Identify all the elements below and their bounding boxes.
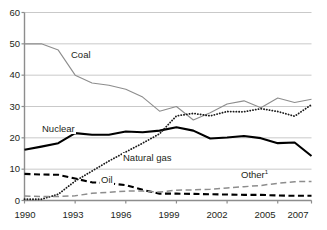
series-label-oil: Oil [100, 175, 114, 185]
series-label-nuclear: Nuclear [41, 124, 76, 134]
x-tick-label-1993: 1993 [53, 210, 93, 220]
series-label-other-footnote: 1 [265, 169, 268, 175]
x-tick-label-1990: 1990 [5, 210, 45, 220]
y-tick-label-30: 30 [2, 102, 20, 112]
y-tick-label-20: 20 [2, 133, 20, 143]
x-tick-label-1996: 1996 [101, 210, 141, 220]
line-chart: 60 50 40 30 20 10 0 1990 1993 1996 1999 … [0, 0, 327, 230]
y-tick-label-40: 40 [2, 70, 20, 80]
series-line-coal [25, 44, 312, 120]
series-label-natural-gas: Natural gas [122, 153, 173, 163]
series-label-coal: Coal [70, 50, 92, 60]
series-label-other: Other1 [240, 170, 269, 180]
series-label-other-text: Other [241, 169, 265, 180]
x-tick-label-2002: 2002 [197, 210, 237, 220]
y-tick-label-60: 60 [2, 8, 20, 18]
x-tick-label-2007: 2007 [278, 210, 318, 220]
y-tick-label-10: 10 [2, 164, 20, 174]
y-tick-label-0: 0 [2, 196, 20, 206]
x-tick-label-1999: 1999 [149, 210, 189, 220]
chart-plot-area [0, 0, 327, 230]
y-tick-label-50: 50 [2, 39, 20, 49]
